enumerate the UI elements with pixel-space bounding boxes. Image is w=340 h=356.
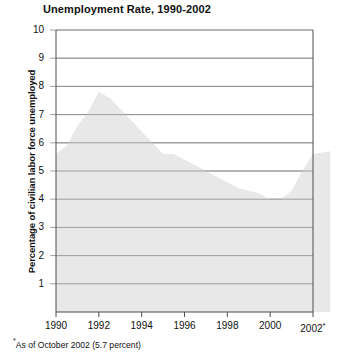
footnote-text: As of October 2002 (5.7 percent) [16, 340, 141, 350]
y-tick-label: 6 [22, 138, 44, 148]
y-tick-label: 10 [22, 25, 44, 35]
y-tick-label: 3 [22, 222, 44, 232]
y-tick-label: 1 [22, 279, 44, 289]
plot-area [0, 0, 340, 356]
x-axis-tick-marks [56, 312, 313, 317]
chart-footnote: *As of October 2002 (5.7 percent) [13, 337, 141, 350]
x-tick-label: 2002* [288, 321, 338, 334]
area-fill [56, 92, 330, 312]
unemployment-rate-chart: Unemployment Rate, 1990-2002 Percentage … [0, 0, 340, 356]
y-tick-label: 7 [22, 110, 44, 120]
y-tick-label: 4 [22, 194, 44, 204]
y-tick-label: 5 [22, 166, 44, 176]
y-tick-label: 9 [22, 53, 44, 63]
y-tick-label: 2 [22, 251, 44, 261]
x-tick-footnote-marker: * [323, 321, 326, 330]
area-series [56, 30, 330, 312]
y-tick-label: 8 [22, 81, 44, 91]
